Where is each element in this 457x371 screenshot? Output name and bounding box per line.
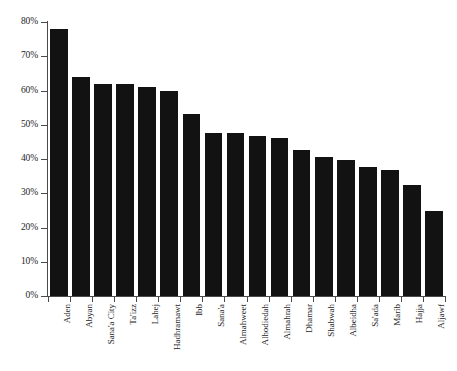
- x-axis-tick: [224, 297, 225, 302]
- y-axis-tick: [41, 22, 48, 23]
- y-axis-tick: [41, 56, 48, 57]
- y-axis-tick-label: 30%: [21, 188, 38, 198]
- x-axis-category-label: Almahweet: [239, 304, 248, 345]
- bar: [337, 160, 355, 296]
- x-axis-tick: [247, 297, 248, 302]
- bar: [403, 185, 421, 296]
- y-axis-tick-label: 10%: [21, 257, 38, 267]
- x-axis-tick: [202, 297, 203, 302]
- bar: [94, 84, 112, 296]
- bar: [271, 138, 289, 296]
- x-axis-category-label: Sana'a: [217, 304, 226, 327]
- x-axis-tick: [379, 297, 380, 302]
- y-axis-tick: [41, 125, 48, 126]
- bar: [381, 170, 399, 296]
- bar: [315, 157, 333, 296]
- x-axis-tick: [445, 297, 446, 302]
- y-axis-tick: [41, 296, 48, 297]
- x-axis-tick: [401, 297, 402, 302]
- x-axis-category-label: Sana'a City: [107, 304, 116, 344]
- y-axis-tick: [41, 262, 48, 263]
- y-axis-tick-label: 40%: [21, 154, 38, 164]
- x-axis-category-label: Abyan: [85, 304, 94, 328]
- bar: [249, 136, 267, 296]
- bar: [72, 77, 90, 296]
- y-axis-tick-label: 60%: [21, 86, 38, 96]
- x-axis-tick: [114, 297, 115, 302]
- x-axis-category-label: Almahrah: [283, 304, 292, 340]
- x-axis-tick: [158, 297, 159, 302]
- bar: [205, 133, 223, 296]
- x-axis-category-label: Ibb: [195, 304, 204, 316]
- x-axis-tick: [423, 297, 424, 302]
- x-axis-category-label: Ta'izz: [129, 304, 138, 325]
- x-axis-tick: [335, 297, 336, 302]
- x-axis-tick: [70, 297, 71, 302]
- bar: [116, 84, 134, 296]
- bar: [183, 114, 201, 296]
- y-axis-tick-label: 50%: [21, 120, 38, 130]
- y-axis-tick: [41, 228, 48, 229]
- x-axis-tick: [92, 297, 93, 302]
- y-axis-tick-label: 70%: [21, 51, 38, 61]
- y-axis-tick-label: 20%: [21, 223, 38, 233]
- x-axis-category-label: Dhamar: [305, 304, 314, 333]
- x-axis-category-label: Albeidha: [349, 304, 358, 337]
- bar-chart-figure: 0%10%20%30%40%50%60%70%80% AdenAbyanSana…: [0, 0, 457, 371]
- x-axis-category-label: Marib: [393, 304, 402, 326]
- y-axis-tick-label: 0%: [26, 291, 38, 301]
- y-axis-tick: [41, 91, 48, 92]
- plot-area: [48, 22, 445, 296]
- bar: [227, 133, 245, 296]
- y-axis-tick: [41, 193, 48, 194]
- x-axis-tick: [180, 297, 181, 302]
- bar: [359, 167, 377, 296]
- bar: [50, 29, 68, 296]
- x-axis-category-label: Shabwah: [327, 304, 336, 337]
- x-axis-tick: [136, 297, 137, 302]
- x-axis-category-label: Lahej: [151, 304, 160, 324]
- x-axis-tick: [357, 297, 358, 302]
- bar: [293, 150, 311, 296]
- bar: [425, 211, 443, 296]
- x-axis-tick: [48, 297, 49, 302]
- bar: [160, 91, 178, 296]
- x-axis-tick: [313, 297, 314, 302]
- x-axis-category-label: Hadhramawt: [173, 304, 182, 350]
- x-axis-category-label: Alhodiedah: [261, 304, 270, 346]
- x-axis-tick: [269, 297, 270, 302]
- y-axis-tick-label: 80%: [21, 17, 38, 27]
- x-axis-category-label: Hajja: [415, 304, 424, 323]
- bar: [138, 87, 156, 296]
- x-axis-category-label: Aljawf: [437, 304, 446, 329]
- x-axis-category-label: Sa'ada: [371, 304, 380, 327]
- x-axis-tick: [291, 297, 292, 302]
- x-axis-category-label: Aden: [63, 304, 72, 323]
- y-axis-tick: [41, 159, 48, 160]
